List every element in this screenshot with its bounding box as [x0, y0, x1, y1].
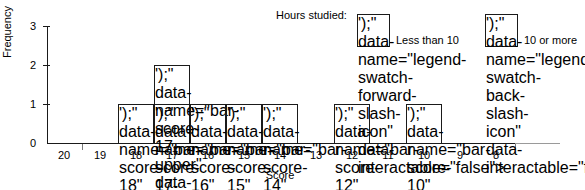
x-tick-label-20: 20: [46, 150, 82, 161]
legend: Hours studied: ');" data-name="legend-sw…: [276, 10, 585, 50]
y-tick-label-1: 1: [22, 99, 36, 110]
legend-entry-less-than-10: ');" data-name="legend-swatch-forward-sl…: [357, 14, 459, 47]
legend-label-10-or-more: 10 or more: [524, 35, 577, 46]
y-axis-label: Frequency: [2, 44, 13, 58]
y-tick-label-0: 0: [22, 138, 36, 149]
x-tick-label-19: 19: [82, 150, 118, 161]
legend-label-less-than-10: Less than 10: [396, 35, 459, 46]
y-tick-label-3: 3: [22, 21, 36, 32]
legend-entry-10-or-more: ');" data-name="legend-swatch-back-slash…: [485, 14, 577, 47]
y-axis-line: [47, 26, 48, 143]
histogram-chart: Frequency 3 2 1 0 20 19 18 17 16 15 14 1…: [0, 0, 585, 190]
legend-title: Hours studied:: [276, 10, 347, 21]
y-tick-label-2: 2: [22, 60, 36, 71]
